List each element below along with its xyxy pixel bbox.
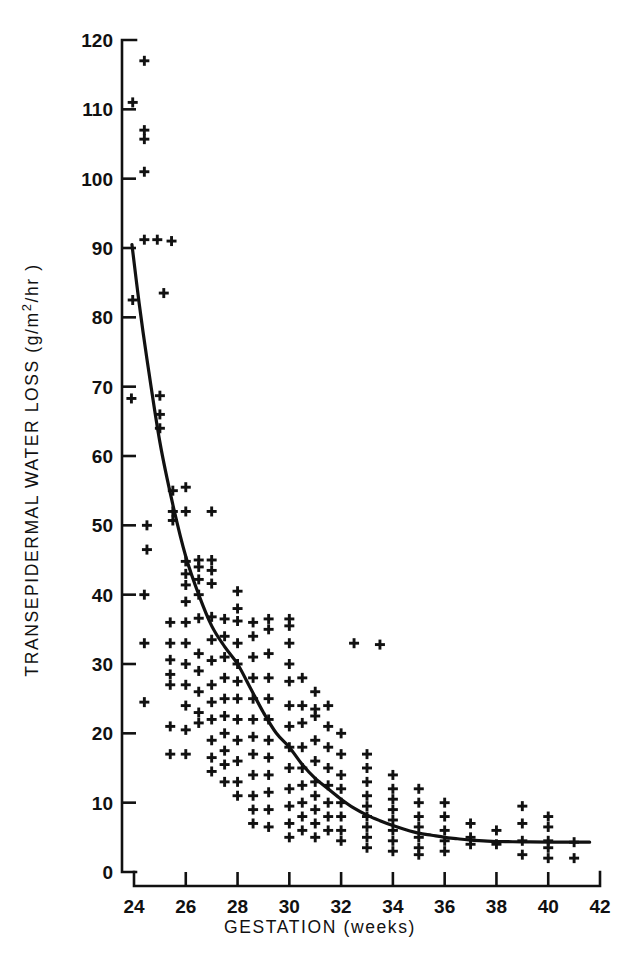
x-axis-tick-label: 32: [331, 896, 352, 917]
x-axis-tick-label: 34: [382, 896, 404, 917]
x-axis-title-text: GESTATION (weeks): [224, 917, 416, 937]
x-axis-title: GESTATION (weeks): [224, 917, 416, 937]
y-axis-title-superscript: 2: [19, 302, 34, 311]
y-axis-tick-label: 120: [81, 30, 113, 51]
y-axis-tick-label: 30: [92, 654, 113, 675]
x-axis-tick-label: 24: [123, 896, 145, 917]
chart-background: [0, 0, 641, 969]
y-axis-tick-label: 10: [92, 793, 113, 814]
y-axis-tick-label: 20: [92, 723, 113, 744]
y-axis-tick-label: 110: [82, 99, 113, 120]
y-axis-title: TRANSEPIDERMAL WATER LOSS (g/m2/hr ): [19, 263, 42, 676]
y-axis-title-prefix: TRANSEPIDERMAL WATER LOSS (g/m: [22, 311, 42, 676]
y-axis-tick-label: 80: [92, 307, 113, 328]
y-axis-tick-label: 50: [92, 515, 113, 536]
x-axis-tick-label: 36: [434, 896, 455, 917]
y-axis-tick-label: 100: [81, 169, 113, 190]
x-axis-tick-label: 30: [279, 896, 300, 917]
y-axis-title-text: TRANSEPIDERMAL WATER LOSS (g/m2/hr ): [19, 263, 42, 676]
y-axis-tick-label: 70: [92, 377, 113, 398]
y-axis-title-suffix: /hr ): [22, 263, 42, 302]
y-axis-tick-label: 90: [92, 238, 113, 259]
y-axis-tick-label: 60: [92, 446, 113, 467]
x-axis-tick-label: 38: [486, 896, 507, 917]
x-axis-tick-label: 42: [589, 896, 610, 917]
x-axis-tick-label: 26: [175, 896, 196, 917]
chart-container: 0102030405060708090100110120 24262830323…: [0, 0, 641, 969]
x-axis-tick-label: 28: [227, 896, 248, 917]
transepidermal-water-loss-scatter-chart: 0102030405060708090100110120 24262830323…: [0, 0, 641, 969]
y-axis-tick-label: 40: [92, 585, 113, 606]
y-axis-tick-label: 0: [102, 862, 113, 883]
x-axis-tick-label: 40: [538, 896, 559, 917]
